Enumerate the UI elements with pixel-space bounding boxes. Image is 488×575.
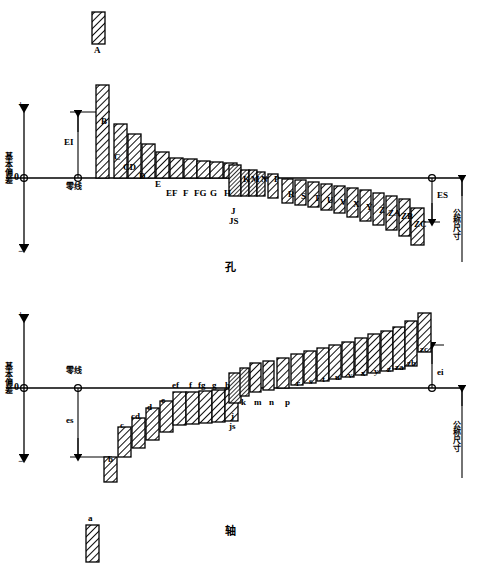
shaft-nominal-size-label: 公称尺寸 bbox=[451, 420, 460, 452]
bar-label-shaft-r: r bbox=[296, 379, 300, 388]
hole-minus-sign: − bbox=[18, 247, 23, 256]
bar-label-shaft-js: js bbox=[229, 422, 236, 431]
bar-label-hole-ZC: ZC bbox=[414, 220, 427, 229]
bar-label-shaft-u: u bbox=[335, 373, 340, 382]
tolerance-bar-shaft-f bbox=[186, 392, 199, 424]
bar-label-hole-EF: EF bbox=[166, 189, 178, 198]
bar-label-hole-P: P bbox=[274, 175, 280, 184]
bar-label-shaft-zc: zc bbox=[420, 345, 428, 354]
tolerance-bar-hole-E bbox=[156, 152, 169, 178]
shaft-plus-sign: + bbox=[18, 310, 23, 319]
bar-label-shaft-b: b bbox=[108, 455, 113, 464]
shaft-axis-label: 基本偏差 bbox=[3, 362, 12, 394]
bar-label-hole-CD: CD bbox=[123, 163, 136, 172]
bar-label-hole-E: E bbox=[155, 180, 161, 189]
shaft-es-label: es bbox=[66, 416, 74, 425]
bar-label-hole-J: J bbox=[231, 207, 236, 216]
tolerance-bar-shaft-p bbox=[277, 358, 289, 388]
bar-label-hole-M: M bbox=[251, 175, 260, 184]
bar-label-hole-N: N bbox=[261, 175, 268, 184]
bar-label-shaft-c: c bbox=[120, 421, 124, 430]
tolerance-bar-hole-A bbox=[92, 12, 105, 44]
tolerance-bar-shaft-c bbox=[118, 427, 131, 457]
tolerance-bar-shaft-n bbox=[263, 361, 274, 390]
bar-label-shaft-h: h bbox=[225, 381, 230, 390]
bar-label-hole-R: R bbox=[288, 190, 295, 199]
bar-label-hole-D: D bbox=[139, 172, 146, 181]
bar-label-shaft-s: s bbox=[309, 377, 313, 386]
tolerance-bar-shaft-a bbox=[86, 525, 99, 562]
hole-zero-line-label: 零线 bbox=[66, 182, 82, 191]
bar-label-hole-U: U bbox=[327, 196, 334, 205]
tolerance-bar-hole-F bbox=[184, 159, 197, 178]
shaft-ei-label: ei bbox=[437, 368, 444, 377]
bar-label-hole-G: G bbox=[210, 189, 217, 198]
bar-label-hole-B: B bbox=[101, 117, 107, 126]
tolerance-bar-shaft-j bbox=[229, 373, 241, 403]
bar-label-hole-FG: FG bbox=[194, 189, 207, 198]
bar-label-shaft-v: v bbox=[348, 371, 353, 380]
tolerance-bar-shaft-m bbox=[250, 363, 261, 392]
tolerance-bar-hole-FG bbox=[197, 161, 210, 178]
bar-label-hole-A: A bbox=[94, 46, 101, 55]
bar-label-hole-ZA: ZA bbox=[388, 209, 401, 218]
shaft-minus-sign: − bbox=[18, 457, 23, 466]
tolerance-bar-shaft-cd bbox=[132, 418, 145, 448]
hole-plus-sign: + bbox=[18, 100, 23, 109]
bar-label-shaft-f: f bbox=[189, 381, 192, 390]
tolerance-bar-shaft-fg bbox=[199, 391, 212, 423]
tolerance-bar-shaft-d bbox=[146, 408, 159, 440]
bar-label-shaft-cd: cd bbox=[131, 412, 140, 421]
bar-label-shaft-t: t bbox=[322, 375, 325, 384]
bar-label-hole-V: V bbox=[340, 198, 347, 207]
bar-label-shaft-j: j bbox=[231, 412, 234, 421]
bar-label-hole-Y: Y bbox=[366, 203, 373, 212]
bar-label-shaft-y: y bbox=[374, 367, 379, 376]
bar-label-hole-C: C bbox=[114, 153, 121, 162]
hole-zero-tick: 0 bbox=[14, 172, 19, 181]
bar-label-shaft-n: n bbox=[269, 398, 274, 407]
bar-label-shaft-zb: zb bbox=[407, 359, 416, 368]
tolerance-bar-hole-B bbox=[96, 85, 109, 178]
bar-label-shaft-a: a bbox=[88, 514, 93, 523]
shaft-zero-tick: 0 bbox=[14, 382, 19, 391]
bar-label-hole-Z: Z bbox=[379, 206, 385, 215]
bar-label-hole-F: F bbox=[183, 189, 189, 198]
shaft-zero-line-label: 零线 bbox=[66, 366, 82, 375]
bar-label-hole-H: H bbox=[224, 189, 231, 198]
bar-label-hole-X: X bbox=[353, 200, 360, 209]
hole-axis-label: 基本偏差 bbox=[3, 152, 12, 184]
tolerance-bar-shaft-ef bbox=[173, 392, 186, 425]
bar-label-shaft-z: z bbox=[387, 365, 391, 374]
hole-ei-label: EI bbox=[64, 138, 74, 147]
tolerance-zone-diagram: + − 0 基本偏差 零线 EI ES 公称尺寸 孔 + − 0 基本偏差 零线… bbox=[0, 0, 488, 575]
bar-label-hole-JS: JS bbox=[229, 217, 239, 226]
tolerance-bar-shaft-g bbox=[212, 390, 225, 422]
bar-label-hole-S: S bbox=[301, 192, 306, 201]
shaft-bar-group bbox=[86, 313, 431, 562]
hole-bar-group bbox=[92, 12, 424, 245]
tolerance-bar-hole-EF bbox=[170, 158, 183, 178]
tolerance-bar-hole-G bbox=[210, 162, 223, 178]
tolerance-bar-shaft-e bbox=[160, 401, 173, 432]
bar-label-shaft-za: za bbox=[395, 363, 404, 372]
bar-label-shaft-d: d bbox=[147, 403, 152, 412]
bar-label-shaft-p: p bbox=[285, 398, 290, 407]
bar-label-shaft-m: m bbox=[254, 398, 262, 407]
bar-label-hole-ZB: ZB bbox=[401, 212, 413, 221]
hole-es-label: ES bbox=[437, 191, 448, 200]
hole-chart-title: 孔 bbox=[225, 263, 236, 272]
bar-label-hole-T: T bbox=[314, 194, 320, 203]
diagram-canvas bbox=[0, 0, 488, 575]
bar-label-shaft-k: k bbox=[241, 398, 246, 407]
bar-label-shaft-x: x bbox=[361, 369, 366, 378]
bar-label-shaft-e: e bbox=[161, 396, 165, 405]
hole-nominal-size-label: 公称尺寸 bbox=[451, 208, 460, 240]
tolerance-bar-shaft-k bbox=[240, 368, 249, 396]
bar-label-shaft-g: g bbox=[212, 381, 217, 390]
bar-label-shaft-fg: fg bbox=[198, 381, 206, 390]
shaft-chart-title: 轴 bbox=[225, 527, 236, 536]
bar-label-hole-K: K bbox=[243, 175, 250, 184]
bar-label-shaft-ef: ef bbox=[172, 381, 179, 390]
